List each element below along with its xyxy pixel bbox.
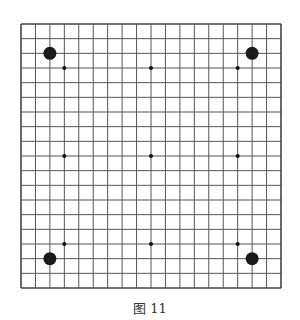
star-point — [236, 154, 240, 158]
black-stone — [43, 47, 56, 60]
star-point — [62, 242, 66, 246]
star-point — [62, 66, 66, 70]
black-stone — [246, 47, 259, 60]
go-board — [0, 0, 300, 295]
star-point — [149, 66, 153, 70]
black-stone — [43, 252, 56, 265]
figure-caption: 图 11 — [0, 298, 300, 317]
star-point — [149, 154, 153, 158]
star-point — [236, 66, 240, 70]
star-point — [62, 154, 66, 158]
star-point — [149, 242, 153, 246]
black-stone — [246, 252, 259, 265]
star-point — [236, 242, 240, 246]
